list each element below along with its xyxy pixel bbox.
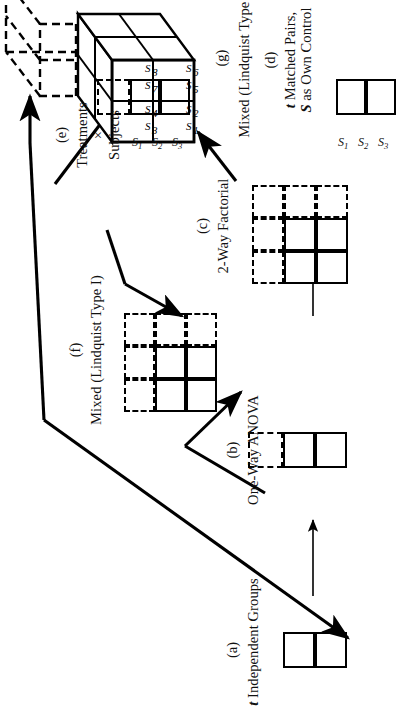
panel-d-caption-italic: t	[282, 104, 298, 108]
cube-label-s2-sub: 2	[193, 107, 199, 119]
panel-c-cell	[316, 251, 348, 284]
panel-c-caption: 2-Way Factorial	[215, 136, 231, 316]
cube-label-s6: S	[186, 62, 192, 74]
panel-d-cell	[366, 79, 396, 115]
panel-b-caption-rest: One-Way ANOVA	[245, 395, 261, 505]
panel-e-s2-sub: 2	[158, 141, 162, 151]
panel-c-cell	[316, 218, 348, 251]
cube-label-s5-sub: 5	[193, 83, 199, 95]
panel-c-cell	[284, 218, 316, 251]
cube-label-s3: S	[145, 120, 151, 132]
panel-e-cell	[160, 79, 190, 115]
panel-e-grid	[130, 79, 190, 115]
panel-d-subject-label-s2: S2	[358, 135, 368, 151]
panel-f-cell	[186, 346, 217, 379]
panel-e-subject-label-s2: S2	[152, 135, 162, 151]
panel-e-caption-line2: ×	[90, 60, 106, 210]
panel-e-s1-sub: 1	[138, 141, 142, 151]
panel-c-cell-dashed	[252, 185, 284, 218]
panel-e-subject-label-s1: S1	[132, 135, 142, 151]
panel-e-subject-label-s3: S3	[172, 135, 182, 151]
panel-b-grid	[283, 432, 347, 468]
panel-e-cell	[130, 79, 160, 115]
panel-f-cell	[155, 346, 186, 379]
panel-d-subject-label-s3: S3	[378, 135, 388, 151]
panel-a-caption-rest: Independent Groups	[245, 578, 261, 702]
panel-b-cell	[283, 432, 315, 468]
panel-e-caption: Treatments × Subjects	[74, 60, 123, 210]
cube-label-s3-sub: 3	[151, 124, 158, 136]
panel-d-caption-line1: t Matched Pairs,	[282, 0, 298, 160]
panel-c-cell	[284, 251, 316, 284]
panel-e-caption-line1: Treatments	[74, 60, 90, 210]
panel-f-cell-dashed	[155, 313, 186, 346]
panel-c-tag: (c)	[194, 206, 211, 246]
panel-d-cell	[336, 79, 366, 115]
panel-f-cell-dashed	[124, 346, 155, 379]
panel-g-tag: (g)	[213, 38, 230, 78]
panel-f-caption: Mixed (Lindquist Type I)	[88, 240, 104, 460]
panel-f-grid-solid	[155, 346, 217, 412]
panel-f-cell	[186, 379, 217, 412]
panel-c-cell-dashed	[316, 185, 348, 218]
panel-d-caption2-italic: S	[298, 104, 314, 112]
panel-e-s3-sub: 3	[178, 141, 182, 151]
panel-f-cell-dashed	[186, 313, 217, 346]
cube-label-s6-sub: 6	[193, 66, 199, 78]
panel-b-tag: (b)	[224, 430, 241, 470]
panel-f-cell-dashed	[124, 379, 155, 412]
panel-a-grid	[283, 632, 347, 668]
panel-g-caption-rest: Mixed (Lindquist Type III)	[236, 0, 252, 138]
panel-g-caption: Mixed (Lindquist Type III)	[236, 0, 252, 178]
arrow-e-to-f	[107, 230, 182, 316]
panel-c-caption-rest: 2-Way Factorial	[215, 179, 231, 274]
panel-a-caption-italic: t	[245, 702, 261, 706]
panel-a-caption: t Independent Groups	[245, 562, 261, 708]
cube-label-s8-sub: 8	[152, 66, 158, 78]
panel-a-cell	[315, 632, 347, 668]
panel-d-caption: t Matched Pairs, S as Own Control	[282, 0, 314, 160]
panel-d-subject-label-s1: S1	[338, 135, 348, 151]
panel-a-tag: (a)	[224, 630, 241, 670]
panel-d-caption2-rest: as Own Control	[298, 7, 314, 104]
panel-c-cell-dashed	[252, 218, 284, 251]
panel-b-cell	[315, 432, 347, 468]
panel-d-s2-sub: 2	[364, 141, 368, 151]
panel-d-grid	[336, 79, 396, 115]
panel-d-s3-sub: 3	[384, 141, 388, 151]
panel-c-cell-dashed	[284, 185, 316, 218]
panel-b-caption: One-Way ANOVA	[245, 370, 261, 530]
panel-e-caption-line3: Subjects	[106, 60, 122, 210]
cube-label-s1: S	[186, 120, 192, 132]
panel-d-caption-rest: Matched Pairs,	[282, 12, 298, 104]
panel-d-caption-line2: S as Own Control	[298, 0, 314, 160]
panel-c-cell-dashed	[252, 251, 284, 284]
panel-e-tag: (e)	[53, 115, 70, 155]
panel-f-tag: (f)	[67, 330, 84, 370]
cube-label-s8: S	[145, 62, 151, 74]
panel-a-cell	[283, 632, 315, 668]
cube-label-s1-sub: 1	[193, 124, 199, 136]
panel-f-caption-rest: Mixed (Lindquist Type I)	[88, 275, 104, 425]
panel-d-s1-sub: 1	[344, 141, 348, 151]
panel-f-cell	[155, 379, 186, 412]
panel-d-tag: (d)	[262, 40, 279, 80]
panel-c-grid-solid	[284, 218, 348, 284]
panel-f-cell-dashed	[124, 313, 155, 346]
figure-canvas: S 1 S 2 S 3 S 4 S 5	[0, 0, 412, 708]
